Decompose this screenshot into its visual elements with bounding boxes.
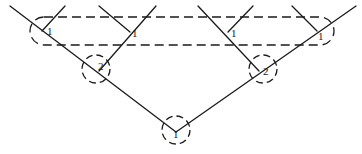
node-label-right-top-inner: 1 <box>231 27 237 39</box>
tree-diagram: 1 1 1 1 2 2 1 <box>0 0 362 154</box>
edge-root-left <box>10 6 176 132</box>
node-label-right-mid: 2 <box>263 65 269 77</box>
edge-righttop-twig <box>292 6 317 31</box>
edge-leftinner-twig <box>99 6 130 32</box>
node-label-left-top-outer: 1 <box>47 25 53 37</box>
top-group-outline <box>30 17 334 45</box>
node-label-left-mid: 2 <box>98 60 104 72</box>
node-label-right-top-outer: 1 <box>318 30 324 42</box>
node-label-left-top-inner: 1 <box>132 27 138 39</box>
node-label-root: 1 <box>173 128 179 140</box>
edge-rightmid-branch <box>198 6 259 71</box>
edge-lefttop-twig <box>42 6 65 31</box>
